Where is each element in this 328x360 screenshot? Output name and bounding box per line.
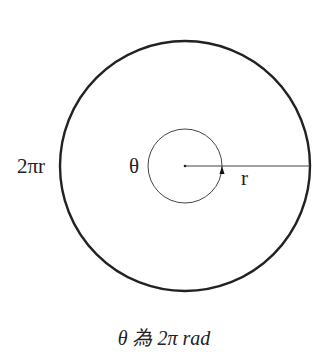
radius-label: r <box>241 166 248 191</box>
caption: θ 為 2π rad <box>0 322 328 351</box>
radian-diagram <box>0 0 328 360</box>
circumference-label: 2πr <box>17 154 45 179</box>
angle-label: θ <box>129 154 139 179</box>
center-point <box>184 165 187 168</box>
arrow-up-icon <box>220 166 225 174</box>
